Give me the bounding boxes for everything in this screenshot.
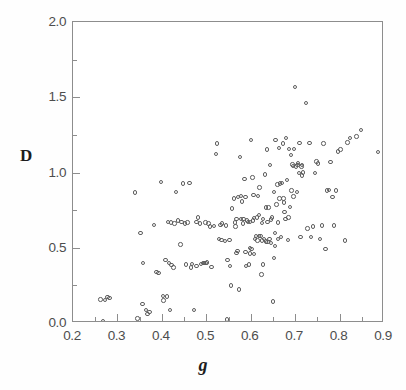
data-point — [133, 190, 137, 194]
data-point — [286, 215, 290, 219]
data-point — [287, 147, 291, 151]
data-point — [138, 231, 142, 235]
data-point — [281, 141, 285, 145]
data-point — [272, 190, 276, 194]
data-point — [228, 264, 232, 268]
data-point — [268, 163, 272, 167]
data-point — [286, 238, 290, 242]
data-point — [247, 262, 251, 266]
data-point — [141, 261, 145, 265]
data-point — [233, 224, 237, 228]
data-point — [219, 238, 223, 242]
data-point — [345, 140, 349, 144]
data-point — [289, 188, 293, 192]
y-tick-label: 1.5 — [20, 89, 66, 104]
data-point — [215, 141, 219, 145]
x-tick-label: 0.4 — [138, 328, 184, 343]
data-point — [263, 172, 267, 176]
data-point — [289, 153, 293, 157]
y-axis-title: D — [20, 146, 32, 166]
data-point — [199, 262, 203, 266]
data-point — [147, 310, 151, 314]
data-point — [178, 242, 182, 246]
x-tick-label: 0.5 — [182, 328, 228, 343]
data-point — [334, 188, 338, 192]
x-axis-title: g — [0, 355, 406, 376]
data-point — [257, 213, 261, 217]
data-point — [238, 155, 242, 159]
data-point — [161, 298, 165, 302]
data-point — [277, 196, 281, 200]
data-point — [271, 299, 275, 303]
data-point — [140, 302, 144, 306]
data-points-layer — [73, 22, 382, 321]
data-point — [181, 181, 185, 185]
x-tick-label: 0.2 — [49, 328, 95, 343]
data-point — [305, 226, 309, 230]
data-point — [251, 218, 255, 222]
data-point — [242, 177, 246, 181]
data-point — [171, 265, 175, 269]
data-point — [338, 147, 342, 151]
data-point — [301, 170, 305, 174]
data-point — [293, 85, 297, 89]
data-point — [288, 205, 292, 209]
x-tick-label: 0.9 — [360, 328, 406, 343]
data-point — [230, 206, 234, 210]
data-point — [261, 262, 265, 266]
data-point — [272, 256, 276, 260]
data-point — [159, 180, 163, 184]
data-point — [189, 265, 193, 269]
data-point — [354, 134, 358, 138]
data-point — [209, 265, 213, 269]
data-point — [237, 287, 241, 291]
data-point — [330, 195, 334, 199]
data-point — [214, 152, 218, 156]
data-point — [265, 220, 269, 224]
data-point — [179, 220, 183, 224]
data-point — [328, 160, 332, 164]
data-point — [196, 215, 200, 219]
data-point — [291, 194, 295, 198]
data-point — [212, 224, 216, 228]
data-point — [273, 231, 277, 235]
data-point — [276, 220, 280, 224]
x-tick-label: 0.6 — [227, 328, 273, 343]
data-point — [265, 147, 269, 151]
data-point — [298, 235, 302, 239]
data-point — [243, 250, 247, 254]
data-point — [198, 221, 202, 225]
data-point — [240, 199, 244, 203]
data-point — [277, 146, 281, 150]
data-point — [252, 252, 256, 256]
data-point — [332, 223, 336, 227]
data-point — [165, 294, 169, 298]
data-point — [225, 258, 229, 262]
data-point — [282, 200, 286, 204]
data-point — [152, 223, 156, 227]
plot-area — [72, 21, 383, 322]
data-point — [257, 185, 261, 189]
data-point — [295, 190, 299, 194]
data-point — [285, 178, 289, 182]
y-tick-label: 0.5 — [20, 239, 66, 254]
data-point — [316, 161, 320, 165]
data-point — [292, 147, 296, 151]
data-point — [174, 190, 178, 194]
data-point — [323, 247, 327, 251]
data-point — [203, 220, 207, 224]
data-point — [266, 205, 270, 209]
data-point — [184, 262, 188, 266]
data-point — [276, 237, 280, 241]
data-point — [251, 193, 255, 197]
data-point — [313, 171, 317, 175]
data-point — [234, 217, 238, 221]
data-point — [192, 308, 196, 312]
data-point — [257, 234, 261, 238]
data-point — [168, 308, 172, 312]
data-point — [249, 138, 253, 142]
data-point — [205, 260, 209, 264]
data-point — [343, 238, 347, 242]
data-point — [243, 195, 247, 199]
data-point — [156, 271, 160, 275]
